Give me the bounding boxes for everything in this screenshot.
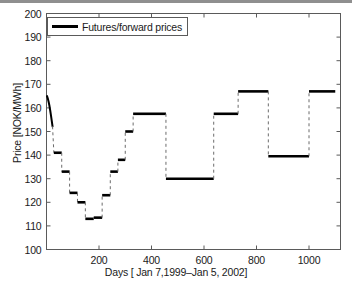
y-tick-200: 200 — [16, 8, 42, 20]
y-tick-110: 110 — [16, 220, 42, 232]
legend-label-futures: Futures/forward prices — [82, 21, 182, 33]
x-axis-title: Days [ Jan 7,1999–Jan 5, 2002] — [0, 266, 352, 278]
x-tick-600: 600 — [196, 254, 213, 266]
chart-legend: Futures/forward prices — [47, 17, 188, 36]
y-tick-190: 190 — [16, 31, 42, 43]
futures-forward-prices-line — [47, 91, 335, 218]
figure-canvas: 100110120130140150160170180190200 200400… — [0, 0, 352, 292]
x-tick-800: 800 — [248, 254, 265, 266]
axis-tick-marks — [47, 14, 341, 250]
x-tick-400: 400 — [143, 254, 160, 266]
legend-line-swatch — [52, 25, 78, 28]
x-tick-200: 200 — [91, 254, 108, 266]
chart-plot-area — [0, 0, 352, 292]
y-tick-120: 120 — [16, 196, 42, 208]
y-axis-title: Price [NOK/MWh] — [11, 58, 23, 188]
y-tick-100: 100 — [16, 244, 42, 256]
axes-frame — [47, 14, 341, 250]
x-tick-1000: 1000 — [298, 254, 321, 266]
